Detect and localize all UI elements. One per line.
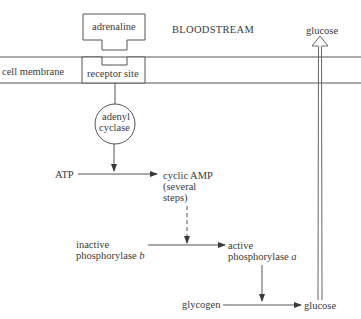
glucose-bloodstream-label: glucose (306, 25, 338, 36)
inactive-phosphorylase-label-2: phosphorylase b (76, 250, 145, 261)
adrenaline-shape (83, 14, 145, 50)
pathway-diagram (0, 0, 361, 319)
cyclic-amp-label-1: cyclic AMP (163, 170, 213, 181)
cell-membrane-label: cell membrane (2, 66, 64, 77)
glucose-cell-label: glucose (304, 300, 336, 311)
receptor-site-label: receptor site (87, 68, 139, 79)
active-phosphorylase-suffix: a (291, 251, 296, 262)
inactive-phosphorylase-word: phosphorylase (76, 250, 137, 261)
inactive-phosphorylase-suffix: b (139, 250, 144, 261)
glucose-export-arrow (312, 36, 328, 300)
cyclic-amp-label-2: (several (163, 181, 196, 192)
cyclic-amp-label-3: steps) (163, 192, 188, 203)
inactive-phosphorylase-label-1: inactive (76, 239, 109, 250)
active-phosphorylase-label-2: phosphorylase a (228, 251, 297, 262)
active-phosphorylase-label-1: active (228, 240, 253, 251)
glycogen-label: glycogen (182, 299, 221, 310)
adenyl-cyclase-label-2: cyclase (99, 122, 130, 133)
bloodstream-label: BLOODSTREAM (172, 24, 254, 35)
adenyl-cyclase-label-1: adenyl (102, 111, 130, 122)
atp-label: ATP (55, 169, 74, 180)
adrenaline-label: adrenaline (92, 21, 136, 32)
active-phosphorylase-word: phosphorylase (228, 251, 289, 262)
